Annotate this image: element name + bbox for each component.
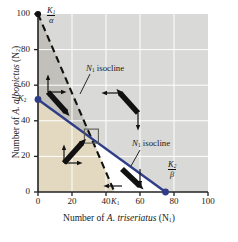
k2-beta-num-sub: 2 <box>174 163 177 169</box>
x-axis-title-main: Number of A. triseriatus (N <box>63 213 169 223</box>
k1-sub: 1 <box>117 200 120 206</box>
y-axis-title: Number of A. albopictus (N2) <box>12 7 22 197</box>
n1-isocline-word: isocline <box>97 63 124 73</box>
k1-alpha-den: α <box>47 15 55 24</box>
point-k1-over-alpha <box>35 11 41 17</box>
k2-beta-den: β <box>168 169 176 178</box>
label-n2-isocline: N1 isocline <box>132 139 170 149</box>
figure-container: 100 80 60 40 20 0 0 20 40 60 80 100 K1 α… <box>0 0 238 242</box>
x-axis-title-end: ) <box>172 213 175 223</box>
y-axis-title-end: ) <box>11 46 21 49</box>
x-tick-0: 0 <box>30 197 46 206</box>
n1-isocline-sub: 1 <box>92 67 95 73</box>
n2-isocline-word: isocline <box>143 138 170 148</box>
point-k2 <box>35 96 42 103</box>
x-tick-80: 80 <box>166 197 182 206</box>
x-tick-100: 100 <box>198 197 218 206</box>
x-tick-60: 60 <box>132 197 148 206</box>
k1-alpha-num-sub: 1 <box>53 9 56 15</box>
point-k2-over-beta <box>162 189 169 196</box>
k2-sub: 2 <box>24 97 27 103</box>
y-axis-title-main: Number of A. albopictus (N <box>11 52 21 158</box>
label-k2-over-beta: K2 β <box>168 160 176 178</box>
y-axis-title-sub: 2 <box>15 49 21 52</box>
x-axis-title: Number of A. triseriatus (N1) <box>0 214 238 224</box>
n2-isocline-sub: 1 <box>138 142 141 148</box>
label-k1: K1 <box>111 197 119 206</box>
label-k1-over-alpha: K1 α <box>47 6 55 24</box>
label-n1-isocline: N1 isocline <box>86 64 124 74</box>
x-tick-20: 20 <box>64 197 80 206</box>
